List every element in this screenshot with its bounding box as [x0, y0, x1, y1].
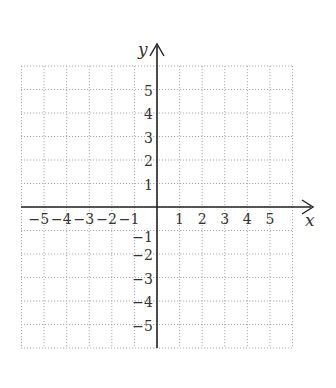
y-tick-label: 2	[144, 153, 153, 169]
y-tick-label: −5	[132, 318, 153, 334]
x-tick-label: −3	[74, 211, 95, 227]
x-tick-label: −4	[51, 211, 72, 227]
x-tick-labels: −5−4−3−2−112345	[28, 211, 274, 227]
x-tick-label: 5	[265, 211, 274, 227]
x-tick-label: −1	[119, 211, 140, 227]
axes	[21, 44, 313, 348]
x-tick-label: −5	[28, 211, 49, 227]
y-tick-label: 3	[144, 130, 153, 146]
y-tick-label: −3	[132, 271, 153, 287]
y-tick-label: 1	[144, 177, 153, 193]
x-tick-label: −2	[96, 211, 117, 227]
y-tick-label: 4	[144, 106, 153, 122]
y-tick-label: 5	[144, 83, 153, 99]
y-tick-label: −1	[132, 229, 153, 245]
x-tick-label: 2	[198, 211, 207, 227]
x-axis-label: x	[305, 210, 315, 230]
x-tick-label: 1	[175, 211, 184, 227]
x-tick-label: 3	[220, 211, 229, 227]
y-tick-label: −4	[132, 294, 153, 310]
y-tick-label: −2	[132, 247, 153, 263]
x-tick-label: 4	[243, 211, 252, 227]
y-axis-label: y	[137, 39, 148, 59]
coordinate-plane: x y −5−4−3−2−112345 54321−1−2−3−4−5	[0, 0, 336, 388]
y-tick-labels: 54321−1−2−3−4−5	[132, 83, 153, 334]
